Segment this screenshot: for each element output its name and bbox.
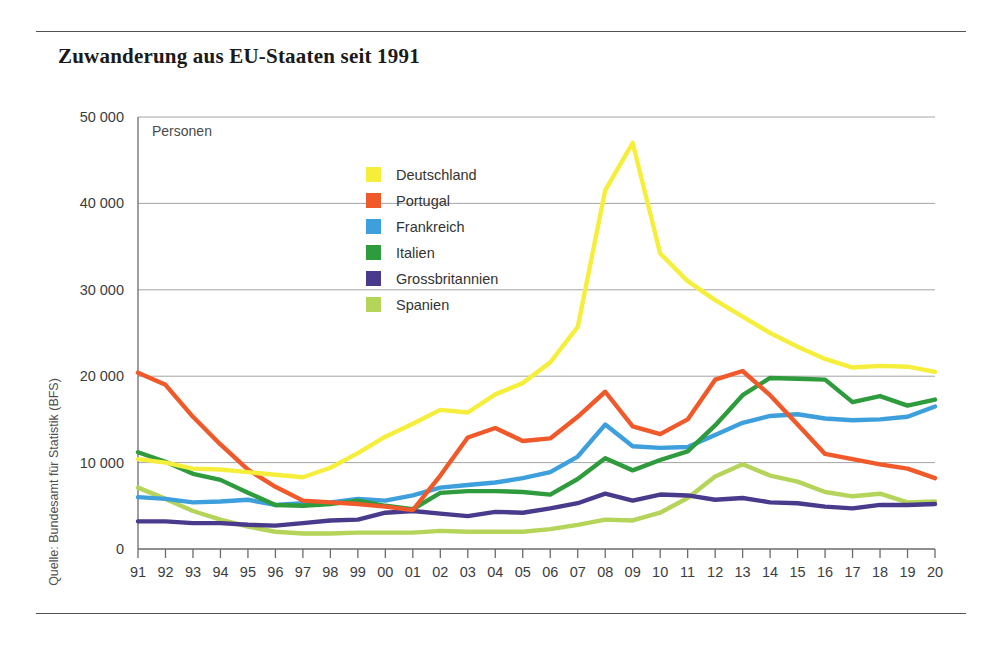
x-tick-label: 06 xyxy=(542,564,558,580)
legend-label-portugal: Portugal xyxy=(396,193,450,209)
x-tick-label: 11 xyxy=(680,564,695,580)
legend-swatch-italien xyxy=(366,245,381,260)
data-series-group xyxy=(138,143,935,534)
x-tick-label: 14 xyxy=(762,564,778,580)
x-tick-label: 10 xyxy=(652,564,668,580)
x-tick-label: 09 xyxy=(625,564,641,580)
y-tick-label: 30 000 xyxy=(80,282,124,298)
x-tick-label: 04 xyxy=(487,564,503,580)
x-tick-label: 18 xyxy=(872,564,888,580)
x-tick-label: 17 xyxy=(844,564,860,580)
gridlines-group xyxy=(138,117,935,463)
bottom-divider-rule xyxy=(36,613,966,614)
x-tick-label: 03 xyxy=(460,564,476,580)
x-tick-label: 02 xyxy=(432,564,448,580)
x-tick-label: 93 xyxy=(185,564,201,580)
y-tick-label: 0 xyxy=(116,541,124,557)
x-axis-ticks xyxy=(138,549,935,558)
x-tick-label: 00 xyxy=(377,564,393,580)
chart-legend: DeutschlandPortugalFrankreichItalienGros… xyxy=(366,167,498,313)
x-tick-label: 91 xyxy=(130,564,146,580)
x-tick-label: 12 xyxy=(707,564,723,580)
y-tick-label: 50 000 xyxy=(80,109,124,125)
legend-swatch-spanien xyxy=(366,297,381,312)
axis-lines-group xyxy=(138,117,935,549)
x-tick-label: 99 xyxy=(350,564,366,580)
y-axis-tick-labels: 010 00020 00030 00040 00050 000 xyxy=(80,109,124,557)
x-tick-label: 15 xyxy=(790,564,806,580)
x-tick-label: 94 xyxy=(212,564,228,580)
x-tick-label: 01 xyxy=(405,564,421,580)
chart-page: Zuwanderung aus EU-Staaten seit 1991 Que… xyxy=(0,0,1002,652)
x-tick-label: 19 xyxy=(899,564,915,580)
legend-label-deutschland: Deutschland xyxy=(396,167,477,183)
x-tick-label: 16 xyxy=(817,564,833,580)
chart-plot-area: 010 00020 00030 00040 00050 000 91929394… xyxy=(0,0,1002,652)
x-tick-label: 05 xyxy=(515,564,531,580)
unit-label: Personen xyxy=(152,123,212,139)
legend-swatch-portugal xyxy=(366,193,381,208)
legend-label-italien: Italien xyxy=(396,245,435,261)
legend-swatch-frankreich xyxy=(366,219,381,234)
x-tick-label: 13 xyxy=(735,564,751,580)
legend-swatch-deutschland xyxy=(366,167,381,182)
x-axis-tick-labels: 9192939495969798990001020304050607080910… xyxy=(130,564,943,580)
y-tick-label: 10 000 xyxy=(80,455,124,471)
x-tick-label: 20 xyxy=(927,564,943,580)
line-chart-svg: 010 00020 00030 00040 00050 000 91929394… xyxy=(0,0,1002,652)
y-tick-label: 20 000 xyxy=(80,368,124,384)
x-tick-label: 92 xyxy=(157,564,173,580)
x-tick-label: 98 xyxy=(322,564,338,580)
legend-label-grossbritannien: Grossbritannien xyxy=(396,271,498,287)
legend-swatch-grossbritannien xyxy=(366,271,381,286)
x-tick-label: 96 xyxy=(267,564,283,580)
legend-label-frankreich: Frankreich xyxy=(396,219,465,235)
legend-label-spanien: Spanien xyxy=(396,297,449,313)
x-tick-label: 97 xyxy=(295,564,311,580)
x-tick-label: 08 xyxy=(597,564,613,580)
x-tick-label: 07 xyxy=(570,564,586,580)
y-tick-label: 40 000 xyxy=(80,195,124,211)
x-tick-label: 95 xyxy=(240,564,256,580)
series-line-deutschland xyxy=(138,143,935,477)
